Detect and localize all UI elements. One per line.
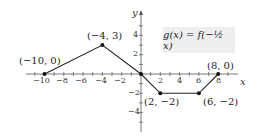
y-tick-m2: −2 xyxy=(128,88,140,97)
label-point-2-m2: (2, −2) xyxy=(144,96,179,107)
x-tick-m6: −6 xyxy=(75,76,87,85)
formula-annotation: g(x) = f(−½ x) xyxy=(163,27,235,53)
x-tick-8: 8 xyxy=(216,76,221,85)
x-tick-m8: −8 xyxy=(56,76,68,85)
y-axis-arrow-icon xyxy=(139,10,143,15)
y-tick-m4: −4 xyxy=(128,107,140,116)
y-axis-label: y xyxy=(132,7,138,18)
x-tick-m4: −4 xyxy=(95,76,107,85)
y-tick-2: 2 xyxy=(133,49,138,58)
x-tick-6: 6 xyxy=(196,76,201,85)
label-point-6-m2: (6, −2) xyxy=(203,96,238,107)
x-tick-4: 4 xyxy=(177,76,182,85)
point-6-m2 xyxy=(197,91,201,95)
x-tick-m10: −10 xyxy=(33,76,50,85)
label-point-m4-3: (−4, 3) xyxy=(87,30,122,41)
point-m4-3 xyxy=(100,43,104,47)
x-tick-2: 2 xyxy=(158,76,163,85)
point-0-0 xyxy=(139,72,143,76)
y-tick-4: 4 xyxy=(133,30,138,39)
x-axis-label: x xyxy=(240,76,246,87)
label-point-m10-0: (−10, 0) xyxy=(19,55,61,66)
formula-text: g(x) = f(−½ x) xyxy=(163,29,235,51)
x-tick-m2: −2 xyxy=(114,76,126,85)
label-point-8-0: (8, 0) xyxy=(207,60,234,71)
point-2-m2 xyxy=(158,91,162,95)
